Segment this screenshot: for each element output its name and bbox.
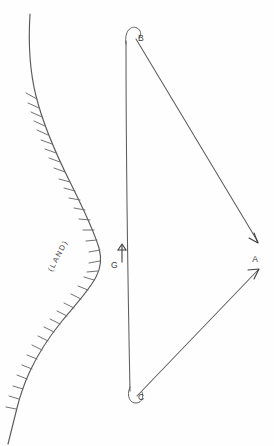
bearing-line-ba-group: [136, 39, 258, 243]
point-b-group: B: [126, 27, 144, 44]
coastline-group: (LAND): [6, 14, 101, 444]
bearing-line-ca: [137, 270, 258, 396]
land-label: (LAND): [46, 238, 70, 273]
navigation-diagram-svg: (LAND) B C A: [0, 0, 274, 446]
coastline-hatch-ticks: [6, 93, 100, 409]
baseline-bc-line: [126, 41, 130, 391]
point-g-label: G: [111, 260, 118, 270]
baseline-bc-group: [126, 41, 130, 391]
point-a-group: A: [252, 254, 258, 264]
point-c-group: C: [128, 387, 144, 403]
bearing-line-ba: [136, 39, 258, 242]
bearing-line-ca-group: [137, 269, 259, 396]
coastline-path: [8, 14, 101, 444]
point-g-group: G: [111, 244, 126, 270]
point-b-label: B: [138, 33, 144, 43]
point-a-label: A: [252, 254, 258, 264]
diagram-canvas: (LAND) B C A: [0, 0, 274, 446]
land-label-group: (LAND): [46, 238, 70, 273]
